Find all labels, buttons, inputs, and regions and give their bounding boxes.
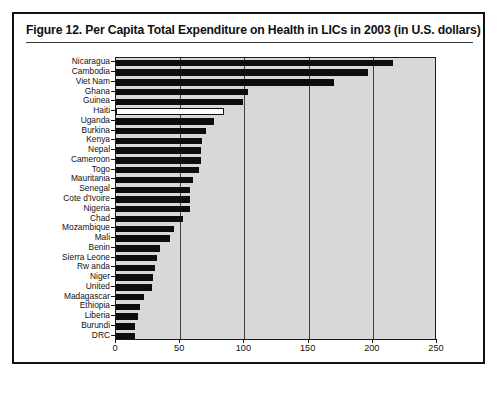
bar-burundi <box>116 323 135 329</box>
bar-niger <box>116 274 153 280</box>
bar-row <box>116 313 435 319</box>
plot-area <box>115 57 436 340</box>
bar-row <box>116 108 435 114</box>
category-label: Mozambique <box>62 223 110 232</box>
category-label: Ghana <box>85 87 110 96</box>
bar-chad <box>116 216 183 222</box>
bar-rw-anda <box>116 265 155 271</box>
bar-row <box>116 138 435 144</box>
bar-mauritania <box>116 177 193 183</box>
bar-haiti <box>116 108 224 114</box>
bar-row <box>116 304 435 310</box>
category-label: Uganda <box>81 116 110 125</box>
category-label: Cote d'Ivoire <box>63 194 110 203</box>
bar-cote-d-ivoire <box>116 196 190 202</box>
category-label: Kenya <box>86 135 110 144</box>
category-label: Liberia <box>85 311 110 320</box>
bar-madagascar <box>116 294 144 300</box>
bar-row <box>116 206 435 212</box>
bar-series <box>116 58 435 339</box>
category-axis-labels: NicaraguaCambodiaViet NamGhanaGuineaHait… <box>28 57 110 340</box>
category-label: Madagascar <box>64 292 110 301</box>
bar-sierra-leone <box>116 255 157 261</box>
category-label: Nicaragua <box>72 57 110 66</box>
bar-row <box>116 60 435 66</box>
value-axis-ticks: 050100150200250 <box>115 343 436 359</box>
bar-row <box>116 177 435 183</box>
bar-row <box>116 147 435 153</box>
category-label: Haiti <box>93 106 110 115</box>
category-label: Mali <box>95 233 110 242</box>
bar-row <box>116 235 435 241</box>
bar-row <box>116 274 435 280</box>
bar-row <box>116 196 435 202</box>
category-label: Burundi <box>81 321 110 330</box>
bar-row <box>116 187 435 193</box>
category-label: Senegal <box>79 184 110 193</box>
category-label: DRC <box>92 331 110 340</box>
category-label: Viet Nam <box>76 77 110 86</box>
bar-mozambique <box>116 226 174 232</box>
bar-benin <box>116 245 160 251</box>
bar-row <box>116 99 435 105</box>
bar-row <box>116 216 435 222</box>
category-label: Togo <box>92 165 110 174</box>
category-label: Sierra Leone <box>62 253 110 262</box>
bar-burkina <box>116 128 206 134</box>
bar-row <box>116 128 435 134</box>
bar-kenya <box>116 138 202 144</box>
bar-viet-nam <box>116 79 334 85</box>
bar-liberia <box>116 313 138 319</box>
bar-row <box>116 79 435 85</box>
bar-guinea <box>116 99 243 105</box>
bar-row <box>116 157 435 163</box>
bar-row <box>116 255 435 261</box>
bar-row <box>116 69 435 75</box>
bar-row <box>116 294 435 300</box>
category-label: Ethiopia <box>80 301 110 310</box>
category-label: Benin <box>89 243 110 252</box>
bar-togo <box>116 167 199 173</box>
bar-row <box>116 323 435 329</box>
category-label: United <box>86 282 110 291</box>
category-label: Rw anda <box>77 262 110 271</box>
value-tick-label: 250 <box>428 343 443 353</box>
bar-row <box>116 118 435 124</box>
bar-cameroon <box>116 157 201 163</box>
bar-row <box>116 245 435 251</box>
value-tick-label: 200 <box>364 343 379 353</box>
bar-drc <box>116 333 135 339</box>
value-tick-label: 0 <box>112 343 117 353</box>
category-label: Nigeria <box>83 204 110 213</box>
bar-row <box>116 333 435 339</box>
category-label: Chad <box>90 214 110 223</box>
bar-row <box>116 167 435 173</box>
category-label: Cameroon <box>71 155 110 164</box>
bar-cambodia <box>116 69 368 75</box>
bar-uganda <box>116 118 214 124</box>
bar-row <box>116 226 435 232</box>
category-label: Burkina <box>82 126 110 135</box>
bar-senegal <box>116 187 190 193</box>
bar-nepal <box>116 147 201 153</box>
bar-united <box>116 284 152 290</box>
bar-mali <box>116 235 170 241</box>
chart-plot-wrapper: NicaraguaCambodiaViet NamGhanaGuineaHait… <box>14 14 487 362</box>
bar-nicaragua <box>116 60 393 66</box>
bar-nigeria <box>116 206 190 212</box>
category-label: Cambodia <box>72 67 110 76</box>
value-tick-label: 100 <box>236 343 251 353</box>
bar-ethiopia <box>116 304 140 310</box>
category-label: Niger <box>90 272 110 281</box>
bar-row <box>116 284 435 290</box>
value-tick-label: 150 <box>300 343 315 353</box>
value-tick-label: 50 <box>174 343 184 353</box>
figure-frame: Figure 12. Per Capita Total Expenditure … <box>12 12 485 364</box>
bar-row <box>116 89 435 95</box>
category-label: Nepal <box>88 145 110 154</box>
bar-ghana <box>116 89 248 95</box>
category-label: Guinea <box>83 96 110 105</box>
category-label: Mauritania <box>71 174 110 183</box>
bar-row <box>116 265 435 271</box>
